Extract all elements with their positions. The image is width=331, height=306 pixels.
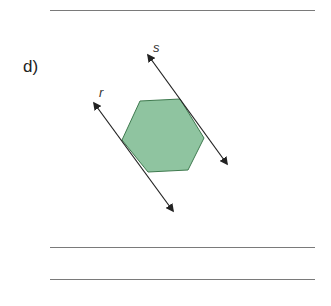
line-r-label: r [99,85,104,100]
hexagon-figure: s r [0,0,331,306]
hexagon-shape [122,99,204,172]
line-s-label: s [153,40,160,55]
